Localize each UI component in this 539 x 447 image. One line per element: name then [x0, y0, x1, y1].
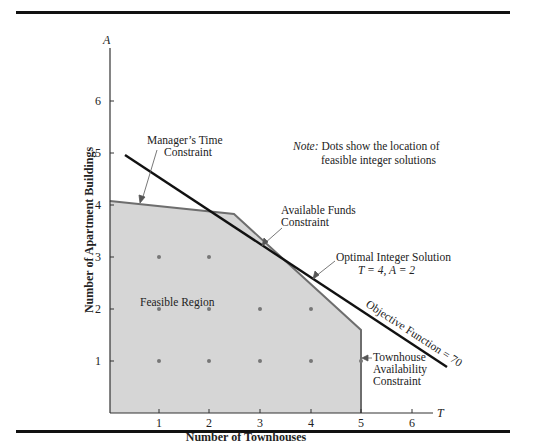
feasible-region-label: Feasible Region: [140, 296, 215, 309]
x-axis-symbol: T: [437, 406, 445, 420]
townhouse-label-3: Constraint: [373, 375, 422, 387]
funds-label-2: Constraint: [281, 216, 330, 228]
chart: 1 2 3 4 5 6 1 2 3 4 5 6 A T Number of To…: [0, 0, 539, 447]
y-tick-label: 1: [95, 354, 101, 368]
optimal-solution-label: Optimal Integer Solution: [336, 251, 451, 264]
x-tick-label: 3: [257, 416, 263, 430]
y-axis-title: Number of Apartment Buildings: [82, 147, 96, 313]
x-tick-label: 1: [156, 416, 162, 430]
note-label: Note: Dots show the location of: [292, 140, 440, 152]
optimal-solution-values: T = 4, A = 2: [358, 264, 415, 277]
townhouse-label: Townhouse: [373, 351, 426, 363]
x-tick-label: 4: [308, 416, 314, 430]
x-tick-label: 6: [409, 416, 415, 430]
note-label-2: feasible integer solutions: [321, 154, 436, 167]
x-axis-title: Number of Townhouses: [186, 430, 307, 444]
x-tick-label: 2: [206, 416, 212, 430]
y-axis-symbol: A: [102, 33, 111, 47]
funds-label: Available Funds: [281, 204, 356, 216]
manager-time-label-2: Constraint: [164, 146, 213, 158]
x-tick-label: 5: [358, 416, 364, 430]
y-tick-label: 6: [95, 94, 101, 108]
